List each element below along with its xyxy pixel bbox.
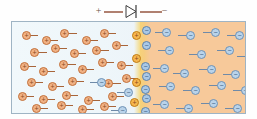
electron-carrier: − [236, 52, 246, 61]
hole-carrier: + [82, 36, 99, 45]
circuit-symbol-group: + − [0, 0, 257, 21]
velocity-arrow-icon [125, 65, 133, 66]
electron-carrier: − [157, 46, 174, 55]
electron-charge-icon: − [97, 78, 106, 87]
hole-carrier: + [51, 44, 68, 53]
negative-terminal-label: − [160, 4, 169, 18]
hole-carrier: + [132, 31, 141, 40]
hole-charge-icon: + [92, 46, 101, 55]
electron-carrier: − [188, 50, 206, 59]
electron-charge-icon: − [245, 52, 246, 61]
hole-charge-icon: + [62, 91, 71, 100]
electron-charge-icon: − [142, 41, 151, 50]
electron-carrier: − [141, 85, 150, 94]
electron-carrier: − [200, 99, 218, 108]
electron-charge-icon: − [165, 46, 174, 55]
hole-charge-icon: + [68, 77, 77, 86]
electron-charge-icon: − [191, 86, 200, 95]
hole-charge-icon: + [22, 31, 31, 40]
wire-anode [104, 11, 123, 13]
electron-charge-icon: − [207, 65, 216, 74]
electron-carrier: − [116, 88, 133, 97]
wire-cathode [140, 11, 162, 13]
electron-charge-icon: − [197, 50, 206, 59]
electron-charge-icon: − [142, 94, 151, 103]
velocity-arrow-icon [92, 100, 100, 101]
electron-carrier: − [202, 28, 220, 37]
hole-carrier: + [60, 29, 78, 38]
velocity-arrow-icon [40, 108, 48, 109]
electron-charge-icon: − [184, 104, 193, 113]
velocity-arrow-icon [106, 62, 114, 63]
hole-charge-icon: + [122, 74, 131, 83]
hole-carrier: + [59, 60, 77, 69]
electron-charge-icon: − [142, 26, 151, 35]
hole-charge-icon: + [78, 65, 87, 74]
velocity-arrow-icon [86, 109, 94, 110]
electron-charge-icon: − [141, 85, 150, 94]
electron-carrier: − [232, 86, 246, 95]
electron-carrier: − [177, 31, 195, 40]
electron-charge-icon: − [162, 28, 171, 37]
velocity-arrow-icon [50, 40, 58, 41]
electron-carrier: − [154, 28, 171, 37]
electron-carrier: − [89, 78, 106, 87]
electron-carrier: − [208, 81, 226, 90]
electron-carrier: − [142, 72, 151, 81]
hole-charge-icon: + [51, 44, 60, 53]
electron-charge-icon: − [180, 69, 189, 78]
velocity-arrow-icon [35, 82, 43, 83]
hole-charge-icon: + [39, 67, 48, 76]
diode-diagram: + − ++++++++++++++++++++++++++++++++++−−… [0, 0, 257, 119]
electron-carrier: − [110, 106, 127, 114]
electron-carrier: − [172, 69, 189, 78]
hole-charge-icon: + [20, 62, 29, 71]
hole-carrier: + [78, 65, 95, 74]
hole-charge-icon: + [78, 105, 87, 114]
velocity-arrow-icon [68, 33, 77, 34]
electron-carrier: − [216, 46, 234, 55]
electron-charge-icon: − [160, 100, 169, 109]
velocity-arrow-icon [26, 96, 34, 97]
hole-carrier: + [78, 105, 95, 114]
electron-carrier: − [224, 104, 242, 113]
velocity-arrow-icon [78, 53, 86, 54]
hole-charge-icon: + [18, 92, 27, 101]
electron-charge-icon: − [217, 81, 226, 90]
velocity-arrow-icon [86, 69, 94, 70]
electron-carrier: − [152, 100, 169, 109]
electron-charge-icon: − [233, 104, 242, 113]
hole-charge-icon: + [59, 60, 68, 69]
hole-charge-icon: + [132, 31, 141, 40]
hole-carrier: + [62, 91, 79, 100]
hole-charge-icon: + [117, 61, 126, 70]
electron-charge-icon: − [160, 64, 169, 73]
hole-charge-icon: + [32, 104, 41, 113]
hole-carrier: + [92, 46, 110, 55]
hole-carrier: + [27, 78, 44, 87]
electron-carrier: − [142, 41, 151, 50]
electron-charge-icon: − [142, 72, 151, 81]
velocity-arrow-icon [30, 35, 38, 36]
velocity-arrow-icon [108, 33, 116, 34]
hole-carrier: + [130, 98, 139, 107]
electron-charge-icon: − [186, 31, 195, 40]
electron-charge-icon: − [209, 99, 218, 108]
hole-carrier: + [132, 54, 141, 63]
hole-carrier: + [39, 95, 56, 104]
electron-carrier: − [142, 26, 151, 35]
hole-carrier: + [84, 96, 101, 105]
electron-carrier: − [175, 104, 193, 113]
hole-carrier: + [132, 78, 141, 87]
hole-charge-icon: + [70, 49, 79, 58]
hole-charge-icon: + [84, 96, 93, 105]
electron-carrier: − [182, 86, 200, 95]
electron-charge-icon: − [225, 46, 234, 55]
electron-carrier: − [158, 82, 175, 91]
hole-charge-icon: + [130, 98, 139, 107]
electron-charge-icon: − [166, 82, 175, 91]
hole-charge-icon: + [112, 41, 121, 50]
hole-carrier: + [98, 58, 115, 67]
hole-carrier: + [68, 77, 85, 86]
hole-charge-icon: + [132, 78, 141, 87]
